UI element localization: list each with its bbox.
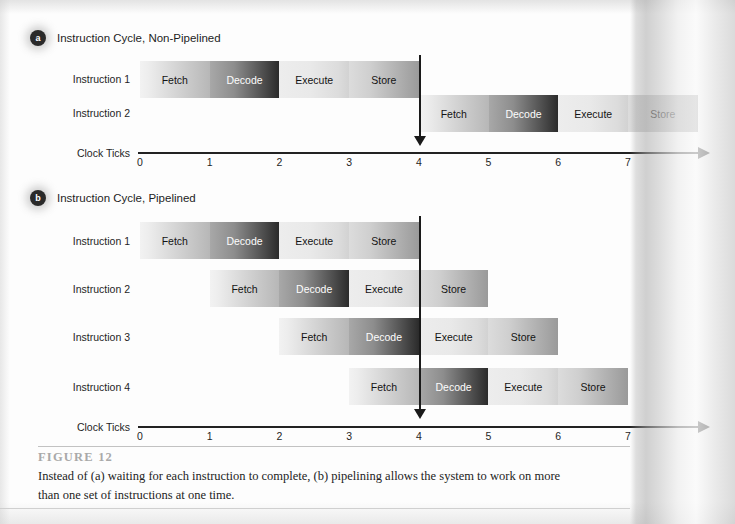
segment-label: Decode [296,283,332,295]
row-label-a-instruction-2: Instruction 2 [10,107,130,119]
segment-execute: Execute [488,368,558,405]
segment-fetch: Fetch [210,270,280,307]
segment-label: Store [371,74,396,86]
panel-a-header: a Instruction Cycle, Non-Pipelined [30,30,221,46]
axis-line-b [138,426,700,428]
tick-b-2: 2 [276,430,282,442]
segment-label: Fetch [231,283,257,295]
segment-label: Decode [505,108,541,120]
tick-a-5: 5 [486,156,492,168]
panel-b-header: b Instruction Cycle, Pipelined [30,190,196,206]
segment-decode: Decode [210,61,280,98]
segment-label: Execute [295,235,333,247]
page-bottom-shadow [0,502,735,524]
segment-decode: Decode [279,270,349,307]
figure-page: a Instruction Cycle, Non-Pipelined b Ins… [0,0,735,524]
marker-line-a [419,55,421,139]
row-label-b-instruction-3: Instruction 3 [10,331,130,343]
tick-b-0: 0 [137,430,143,442]
bar-b-instruction-1: Fetch Decode Execute Store [140,222,419,259]
tick-b-3: 3 [346,430,352,442]
segment-fetch: Fetch [140,61,210,98]
segment-decode: Decode [349,318,419,355]
page-left-shadow [0,0,10,524]
bar-b-instruction-2: Fetch Decode Execute Store [210,270,489,307]
figure-label: FIGURE 12 [38,450,113,465]
caption-line-2: than one set of instructions at one time… [38,488,234,503]
tick-a-7: 7 [625,156,631,168]
tick-b-5: 5 [486,430,492,442]
segment-label: Execute [574,108,612,120]
tick-b-6: 6 [555,430,561,442]
segment-fetch: Fetch [140,222,210,259]
segment-execute: Execute [279,222,349,259]
row-label-b-instruction-1: Instruction 1 [10,235,130,247]
segment-label: Store [371,235,396,247]
segment-label: Decode [226,74,262,86]
caption-line-1: Instead of (a) waiting for each instruct… [38,469,560,484]
segment-decode: Decode [419,368,489,405]
segment-fetch: Fetch [349,368,419,405]
segment-fetch: Fetch [419,95,489,132]
segment-decode: Decode [210,222,280,259]
segment-execute: Execute [279,61,349,98]
segment-store: Store [349,61,419,98]
page-binding-shadow [630,0,735,524]
segment-store: Store [628,95,698,132]
segment-fetch: Fetch [279,318,349,355]
panel-b-badge: b [30,190,46,206]
axis-line-a [138,152,700,154]
panel-a-badge: a [30,30,46,46]
axis-label-a: Clock Ticks [10,147,130,159]
marker-arrow-a [414,136,426,146]
axis-label-b: Clock Ticks [10,421,130,433]
tick-b-4: 4 [416,430,422,442]
tick-a-2: 2 [276,156,282,168]
axis-arrow-a [698,147,710,159]
segment-label: Execute [295,74,333,86]
tick-a-6: 6 [555,156,561,168]
marker-arrow-b [414,409,426,419]
caption-divider [38,446,630,447]
segment-store: Store [349,222,419,259]
segment-store: Store [419,270,489,307]
footer-divider [0,508,630,509]
tick-a-0: 0 [137,156,143,168]
segment-label: Fetch [301,331,327,343]
segment-execute: Execute [558,95,628,132]
panel-b-title: Instruction Cycle, Pipelined [57,192,196,204]
marker-line-b [419,216,421,412]
tick-b-7: 7 [625,430,631,442]
segment-decode: Decode [489,95,559,132]
tick-a-3: 3 [346,156,352,168]
tick-a-1: 1 [207,156,213,168]
page-top-shadow [0,0,735,14]
segment-label: Store [511,331,536,343]
axis-arrow-b [698,421,710,433]
row-label-a-instruction-1: Instruction 1 [10,73,130,85]
segment-label: Fetch [162,74,188,86]
segment-execute: Execute [349,270,419,307]
tick-a-4: 4 [416,156,422,168]
bar-a-instruction-1: Fetch Decode Execute Store [140,61,419,98]
segment-label: Execute [504,381,542,393]
segment-label: Decode [366,331,402,343]
segment-label: Decode [436,381,472,393]
segment-label: Execute [365,283,403,295]
segment-label: Fetch [162,235,188,247]
segment-label: Store [441,283,466,295]
panel-a-title: Instruction Cycle, Non-Pipelined [57,32,221,44]
segment-label: Fetch [441,108,467,120]
segment-label: Fetch [371,381,397,393]
row-label-b-instruction-4: Instruction 4 [10,381,130,393]
segment-store: Store [558,368,628,405]
bar-b-instruction-4: Fetch Decode Execute Store [349,368,628,405]
segment-label: Store [580,381,605,393]
segment-label: Store [650,108,675,120]
bar-a-instruction-2: Fetch Decode Execute Store [419,95,698,132]
segment-label: Decode [226,235,262,247]
segment-store: Store [488,318,558,355]
row-label-b-instruction-2: Instruction 2 [10,283,130,295]
segment-label: Execute [435,331,473,343]
segment-execute: Execute [419,318,489,355]
